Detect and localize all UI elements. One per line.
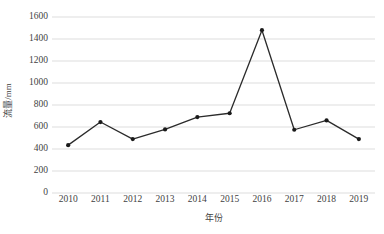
data-line-group xyxy=(68,30,359,145)
data-markers-group xyxy=(66,28,361,147)
data-point-marker xyxy=(66,143,70,147)
data-point-marker xyxy=(228,111,232,115)
data-point-marker xyxy=(357,137,361,141)
x-tick-label: 2017 xyxy=(285,195,304,205)
y-tick-label: 0 xyxy=(43,188,48,198)
y-tick-label: 200 xyxy=(34,166,48,176)
x-tick-label: 2019 xyxy=(349,195,368,205)
data-point-marker xyxy=(98,120,102,124)
data-point-marker xyxy=(163,127,167,131)
x-axis-title: 年份 xyxy=(52,211,375,224)
plot-svg xyxy=(52,17,375,193)
x-tick-label: 2015 xyxy=(220,195,239,205)
x-tick-label: 2016 xyxy=(252,195,271,205)
y-tick-label: 1200 xyxy=(29,56,48,66)
y-tick-label: 400 xyxy=(34,144,48,154)
x-tick-label: 2011 xyxy=(91,195,110,205)
data-point-marker xyxy=(260,28,264,32)
x-tick-label: 2012 xyxy=(123,195,142,205)
data-point-marker xyxy=(131,137,135,141)
y-axis-title-label: 流量/mm xyxy=(1,83,14,118)
data-line xyxy=(68,30,359,145)
x-tick-label: 2014 xyxy=(188,195,207,205)
y-tick-label: 1000 xyxy=(29,78,48,88)
data-point-marker xyxy=(324,118,328,122)
x-tick-label: 2018 xyxy=(317,195,336,205)
data-point-marker xyxy=(292,128,296,132)
line-chart: 流量/mm 02004006008001000120014001600 2010… xyxy=(0,0,384,234)
gridlines xyxy=(52,17,375,193)
x-tick-label: 2013 xyxy=(156,195,175,205)
plot-area xyxy=(52,17,375,193)
y-axis-tick-labels: 02004006008001000120014001600 xyxy=(14,0,50,234)
y-axis-title: 流量/mm xyxy=(0,0,14,200)
data-point-marker xyxy=(195,115,199,119)
x-axis-tick-labels: 2010201120122013201420152016201720182019 xyxy=(52,195,375,211)
y-tick-label: 1400 xyxy=(29,34,48,44)
y-tick-label: 800 xyxy=(34,100,48,110)
x-tick-label: 2010 xyxy=(59,195,78,205)
y-tick-label: 600 xyxy=(34,122,48,132)
y-tick-label: 1600 xyxy=(29,12,48,22)
